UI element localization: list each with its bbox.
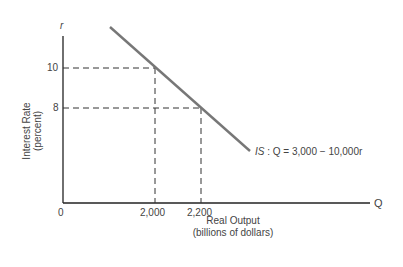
y-axis-symbol: r — [60, 20, 63, 31]
is-curve-label: IS : Q = 3,000 − 10,000r — [255, 146, 362, 157]
y-axis-label: Interest Rate (percent) — [21, 91, 43, 171]
is-curve — [110, 27, 250, 151]
y-tick-8: 8 — [53, 102, 59, 113]
y-tick-10: 10 — [47, 62, 58, 73]
x-axis-symbol: Q — [374, 197, 383, 209]
x-tick-0: 0 — [58, 207, 64, 218]
x-tick-2000: 2,000 — [140, 207, 165, 218]
x-axis-label: Real Output (billions of dollars) — [183, 215, 283, 239]
